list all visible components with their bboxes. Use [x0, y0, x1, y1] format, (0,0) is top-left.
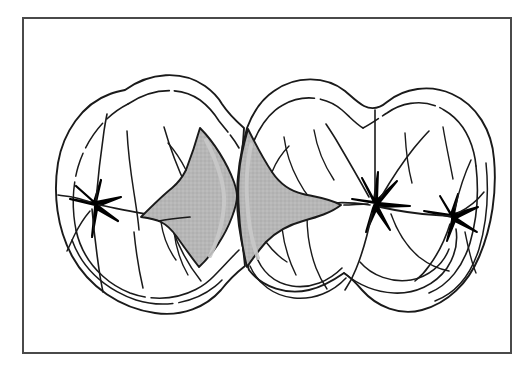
dental-illustration-figure: Occlusal view of two adjacent posterior …	[0, 0, 526, 380]
figure-page: Occlusal view of two adjacent posterior …	[0, 0, 526, 380]
right-groove-entering-shade	[344, 204, 368, 205]
tooth-diagram-svg: Occlusal view of two adjacent posterior …	[0, 0, 526, 380]
